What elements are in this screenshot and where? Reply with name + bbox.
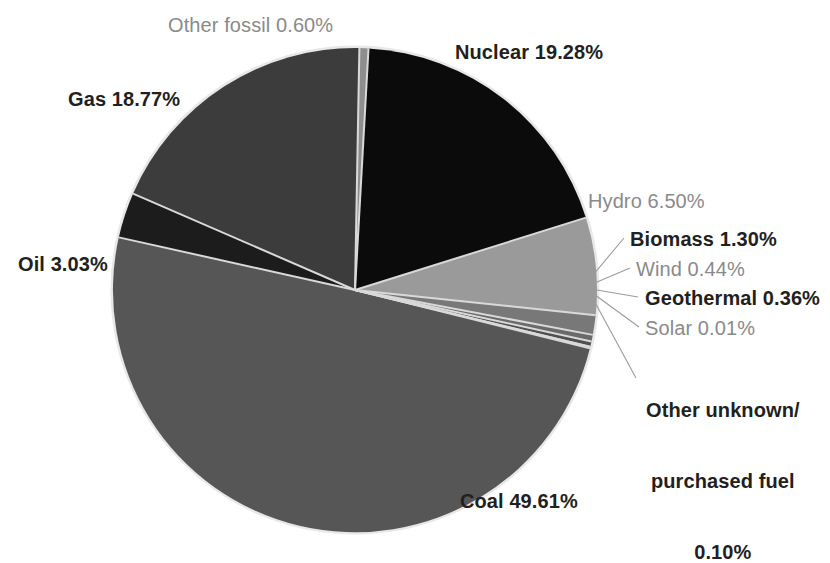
slice-label-coal: Coal 49.61% <box>460 490 578 514</box>
slice-label-hydro: Hydro 6.50% <box>588 190 705 214</box>
slice-label-oil: Oil 3.03% <box>18 253 108 277</box>
slice-label-gas: Gas 18.77% <box>68 88 180 112</box>
slice-label-other-fossil: Other fossil 0.60% <box>168 14 333 38</box>
leader-line-other-unknown <box>591 295 636 378</box>
slice-label-other-unknown-line1: Other unknown/ <box>646 399 800 423</box>
slice-label-other-unknown-line3: 0.10% <box>646 541 800 563</box>
slice-label-geothermal: Geothermal 0.36% <box>645 287 820 311</box>
slice-label-other-unknown-line2: purchased fuel <box>646 470 800 494</box>
slice-label-biomass: Biomass 1.30% <box>630 228 777 252</box>
slice-label-other-unknown: Other unknown/ purchased fuel 0.10% <box>646 352 800 563</box>
slice-label-nuclear: Nuclear 19.28% <box>455 41 603 65</box>
slice-label-wind: Wind 0.44% <box>636 258 745 282</box>
slice-label-solar: Solar 0.01% <box>645 317 755 341</box>
